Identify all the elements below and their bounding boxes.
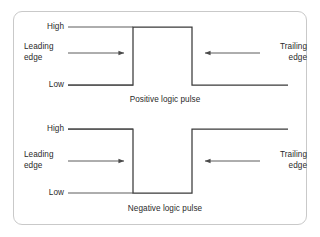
negative-leading-edge-label: Leading edge <box>24 150 68 171</box>
negative-low-label: Low <box>24 188 64 198</box>
positive-leading-edge-label-line1: Leading <box>24 42 68 53</box>
positive-trailing-edge-label-line2: edge <box>263 53 307 64</box>
positive-leading-edge-label: Leading edge <box>24 42 68 63</box>
negative-trailing-edge-label: Trailing edge <box>263 150 307 171</box>
negative-leading-edge-label-line1: Leading <box>24 150 68 161</box>
negative-high-label: High <box>24 124 64 134</box>
positive-low-label: Low <box>24 80 64 90</box>
positive-trailing-edge-label-line1: Trailing <box>263 42 307 53</box>
positive-high-label: High <box>24 22 64 32</box>
waveform-layer <box>0 0 320 237</box>
positive-trailing-edge-label: Trailing edge <box>263 42 307 63</box>
positive-pulse-waveform <box>68 27 288 85</box>
negative-trailing-edge-label-line2: edge <box>263 161 307 172</box>
negative-trailing-edge-label-line1: Trailing <box>263 150 307 161</box>
positive-leading-edge-label-line2: edge <box>24 53 68 64</box>
positive-pulse-caption: Positive logic pulse <box>95 95 235 105</box>
negative-pulse-caption: Negative logic pulse <box>95 204 235 214</box>
logic-pulse-figure: High Low Leading edge Trailing edge Posi… <box>0 0 320 237</box>
negative-leading-edge-label-line2: edge <box>24 161 68 172</box>
